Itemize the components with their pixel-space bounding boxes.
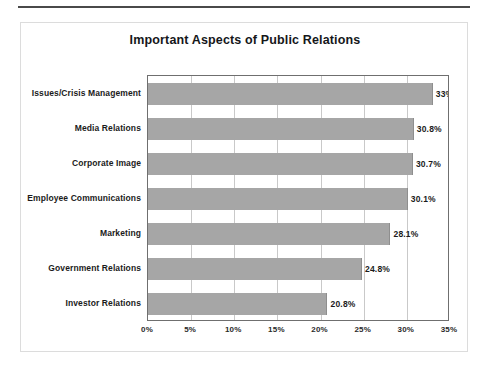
bar-row: 24.8% xyxy=(148,258,448,280)
x-tick-label: 15% xyxy=(268,325,285,334)
plot-area: 33%30.8%30.7%30.1%28.1%24.8%20.8% xyxy=(147,75,449,321)
plot-wrapper: Issues/Crisis ManagementMedia RelationsC… xyxy=(21,23,469,353)
x-tick-label: 25% xyxy=(354,325,371,334)
category-axis-labels: Issues/Crisis ManagementMedia RelationsC… xyxy=(21,75,141,321)
bar xyxy=(148,188,408,210)
bar-value-label: 24.8% xyxy=(365,264,390,274)
category-label: Investor Relations xyxy=(66,298,142,308)
bar xyxy=(148,293,327,315)
bar-value-label: 30.8% xyxy=(417,124,442,134)
bar xyxy=(148,223,390,245)
bar-row: 20.8% xyxy=(148,293,448,315)
bar-row: 33% xyxy=(148,83,448,105)
x-tick-label: 10% xyxy=(225,325,242,334)
x-tick-label: 20% xyxy=(311,325,328,334)
chart-page: Important Aspects of Public Relations Is… xyxy=(0,0,488,370)
bar-value-label: 30.7% xyxy=(416,159,441,169)
x-tick-label: 0% xyxy=(141,325,153,334)
category-label: Employee Communications xyxy=(27,193,141,203)
bar-value-label: 33% xyxy=(436,89,449,99)
x-axis-tick-labels: 0%5%10%15%20%25%30%35% xyxy=(147,325,449,341)
bar-value-label: 30.1% xyxy=(411,194,436,204)
bar xyxy=(148,258,362,280)
category-label: Corporate Image xyxy=(72,158,141,168)
x-tick-label: 35% xyxy=(441,325,458,334)
bar-row: 30.7% xyxy=(148,153,448,175)
category-label: Marketing xyxy=(100,228,141,238)
bar xyxy=(148,83,433,105)
category-label: Government Relations xyxy=(48,263,141,273)
bar-row: 28.1% xyxy=(148,223,448,245)
top-divider-rule xyxy=(18,6,470,8)
bar-series: 33%30.8%30.7%30.1%28.1%24.8%20.8% xyxy=(148,76,448,320)
bar-value-label: 28.1% xyxy=(393,229,418,239)
chart-card: Important Aspects of Public Relations Is… xyxy=(20,22,468,352)
x-tick-label: 30% xyxy=(398,325,415,334)
bar-value-label: 20.8% xyxy=(330,299,355,309)
category-label: Media Relations xyxy=(75,123,141,133)
category-label: Issues/Crisis Management xyxy=(32,88,141,98)
bar-row: 30.8% xyxy=(148,118,448,140)
bar xyxy=(148,118,414,140)
x-tick-label: 5% xyxy=(184,325,196,334)
bar xyxy=(148,153,413,175)
bar-row: 30.1% xyxy=(148,188,448,210)
